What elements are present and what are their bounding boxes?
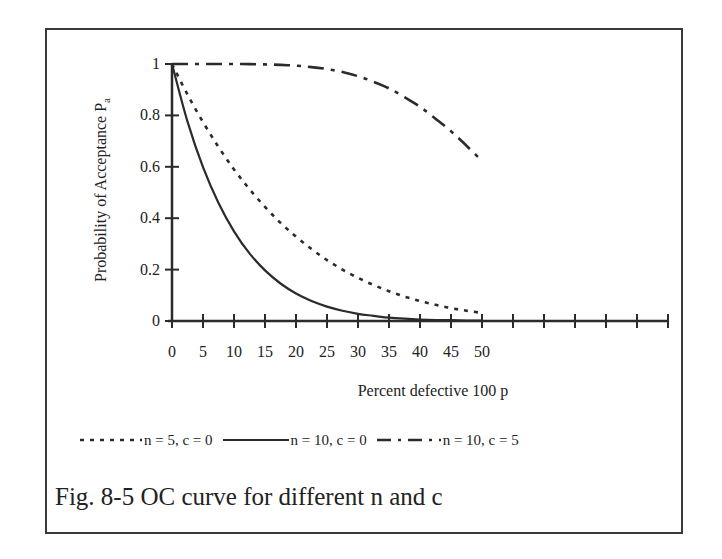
x-tick-label: 20 bbox=[288, 343, 304, 360]
y-tick-label: 0 bbox=[152, 312, 160, 329]
figure-caption: Fig. 8-5 OC curve for different n and c bbox=[55, 483, 443, 511]
legend-item-n10-c0: n = 10, c = 0 bbox=[219, 432, 367, 449]
x-tick-label: 5 bbox=[199, 343, 207, 360]
legend-item-n10-c5: n = 10, c = 5 bbox=[373, 432, 519, 449]
x-tick-label: 40 bbox=[412, 343, 428, 360]
dotted-line-swatch bbox=[78, 435, 144, 445]
oc-curve-chart: 00.20.40.60.8105101520253035404550Percen… bbox=[0, 0, 722, 420]
legend-item-n5-c0: n = 5, c = 0 bbox=[78, 432, 213, 449]
curve-n10-c5 bbox=[172, 64, 482, 161]
x-tick-label: 25 bbox=[319, 343, 335, 360]
x-axis-title: Percent defective 100 p bbox=[358, 382, 509, 400]
solid-line-swatch bbox=[219, 435, 291, 445]
plot-curves bbox=[172, 64, 482, 321]
y-tick-label: 0.2 bbox=[140, 261, 160, 278]
y-tick-label: 0.8 bbox=[140, 106, 160, 123]
curve-n10-c0 bbox=[172, 64, 482, 321]
legend-label: n = 10, c = 0 bbox=[291, 432, 367, 449]
legend: n = 5, c = 0 n = 10, c = 0 n = 10, c = 5 bbox=[78, 428, 525, 452]
x-tick-label: 10 bbox=[226, 343, 242, 360]
legend-label: n = 5, c = 0 bbox=[144, 432, 213, 449]
x-tick-label: 0 bbox=[168, 343, 176, 360]
legend-label: n = 10, c = 5 bbox=[443, 432, 519, 449]
x-tick-label: 30 bbox=[350, 343, 366, 360]
x-tick-label: 35 bbox=[381, 343, 397, 360]
y-axis-title: Probability of Acceptance Pa bbox=[92, 98, 112, 282]
x-tick-label: 45 bbox=[443, 343, 459, 360]
x-tick-label: 50 bbox=[474, 343, 490, 360]
axis-labels: 00.20.40.60.8105101520253035404550Percen… bbox=[92, 55, 508, 400]
y-tick-label: 0.4 bbox=[140, 209, 160, 226]
y-tick-label: 1 bbox=[152, 55, 160, 72]
y-tick-label: 0.6 bbox=[140, 158, 160, 175]
curve-n5-c0 bbox=[172, 64, 482, 313]
x-tick-label: 15 bbox=[257, 343, 273, 360]
dash-dot-line-swatch bbox=[373, 435, 443, 445]
